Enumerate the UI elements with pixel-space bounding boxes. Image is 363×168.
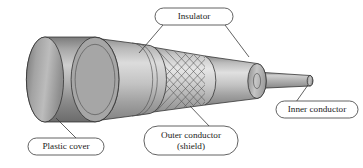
callout-outer-conductor-label-line1: Outer conductor [161, 130, 221, 140]
callout-insulator-label: Insulator [178, 11, 211, 21]
callout-insulator-leader-right [225, 25, 249, 57]
callout-outer-conductor-leader [190, 106, 210, 127]
coaxial-cable-figure: Insulator Plastic cover Outer conductor … [0, 0, 363, 168]
callout-inner-conductor-leader [296, 85, 308, 102]
callout-inner-conductor-label: Inner conductor [288, 104, 346, 114]
callout-plastic-cover-label: Plastic cover [42, 141, 89, 151]
callout-plastic-cover[interactable]: Plastic cover [28, 118, 104, 155]
callout-outer-conductor-label-line2: (shield) [177, 141, 205, 151]
cable-diagram-svg: Insulator Plastic cover Outer conductor … [0, 0, 363, 168]
callout-outer-conductor[interactable]: Outer conductor (shield) [144, 106, 238, 155]
callout-inner-conductor[interactable]: Inner conductor [276, 85, 358, 118]
plastic-cover-geometry [26, 37, 119, 122]
